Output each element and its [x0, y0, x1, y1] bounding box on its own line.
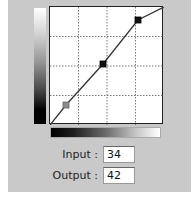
input-gradient-bar	[50, 127, 161, 138]
output-field[interactable]: 42	[103, 167, 135, 184]
input-field[interactable]: 34	[103, 146, 135, 163]
control-point-mid	[100, 61, 106, 67]
control-point-selected	[63, 102, 69, 108]
output-label: Output :	[38, 169, 98, 182]
curves-graph[interactable]	[49, 6, 163, 124]
curve-canvas[interactable]	[50, 7, 164, 125]
output-gradient-bar	[34, 8, 46, 124]
input-label: Input :	[38, 148, 98, 161]
control-point-high	[135, 17, 141, 23]
